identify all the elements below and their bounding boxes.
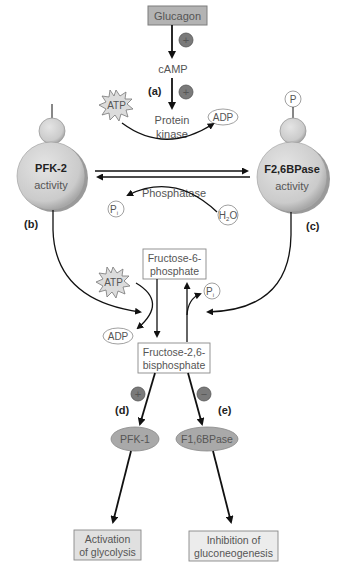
svg-text:−: −	[201, 388, 207, 400]
pfk1-oval: PFK-1	[111, 427, 159, 451]
pfk2-to-reaction-arrow	[53, 210, 140, 312]
pi-release-arrow	[187, 294, 200, 315]
svg-text:ATP: ATP	[107, 100, 126, 111]
f26bpase-sub: activity	[275, 180, 309, 192]
adp-oval-top: ADP	[208, 109, 238, 125]
pi-circle-top: Pi	[108, 201, 124, 217]
svg-text:P: P	[290, 94, 297, 105]
minus-sign-icon: −	[197, 387, 211, 401]
camp-label: cAMP	[158, 63, 187, 75]
glucagon-label: Glucagon	[154, 10, 201, 22]
glucagon-regulation-diagram: Glucagon + cAMP (a) + Protein kinase ATP…	[0, 0, 340, 585]
svg-text:F1,6BPase: F1,6BPase	[181, 433, 233, 445]
fructose-6-phosphate-box: Fructose-6- phosphate	[143, 249, 206, 279]
protein-kinase-label-2: kinase	[156, 128, 188, 140]
label-b: (b)	[24, 218, 38, 230]
f16bpase-to-inhibition-arrow	[213, 451, 231, 522]
f26bpase-title: F2,6BPase	[264, 163, 320, 175]
svg-text:+: +	[183, 86, 189, 98]
pfk2-sub: activity	[34, 179, 68, 191]
svg-text:Inhibition of: Inhibition of	[207, 534, 261, 546]
plus-sign-icon: +	[179, 85, 193, 99]
adp-oval-mid: ADP	[103, 328, 133, 344]
protein-kinase-label-1: Protein	[155, 114, 190, 126]
f26bpase-to-reaction-arrow	[208, 212, 291, 312]
f16bpase-oval: F1,6BPase	[176, 427, 238, 451]
pi-circle-mid: Pi	[204, 283, 220, 299]
phosphatase-label: Phosphatase	[142, 187, 206, 199]
glucagon-box: Glucagon	[148, 6, 207, 25]
inhibition-of-gluconeogenesis-box: Inhibition of gluconeogenesis	[189, 531, 278, 561]
label-d: (d)	[115, 404, 129, 416]
svg-text:PFK-1: PFK-1	[120, 433, 150, 445]
atp-burst-top: ATP	[99, 90, 133, 121]
svg-text:phosphate: phosphate	[150, 265, 199, 277]
svg-text:Fructose-6-: Fructose-6-	[148, 252, 202, 264]
atp-burst-mid: ATP	[96, 267, 130, 298]
label-c: (c)	[306, 220, 320, 232]
pfk2-title: PFK-2	[35, 162, 67, 174]
svg-text:ADP: ADP	[108, 331, 129, 342]
label-e: (e)	[218, 404, 232, 416]
activation-of-glycolysis-box: Activation of glycolysis	[74, 530, 141, 560]
svg-text:of glycolysis: of glycolysis	[79, 546, 136, 558]
pfk2-enzyme: PFK-2 activity	[17, 104, 88, 212]
svg-text:gluconeogenesis: gluconeogenesis	[194, 547, 273, 559]
atp-to-adp-mid-arrow	[136, 283, 153, 328]
f26bpase-enzyme: P F2,6BPase activity	[257, 91, 330, 214]
svg-text:Activation: Activation	[85, 533, 131, 545]
phosphate-tag-icon: P	[285, 91, 301, 107]
svg-text:bisphosphate: bisphosphate	[143, 359, 206, 371]
svg-text:ATP: ATP	[104, 277, 123, 288]
pfk1-to-activation-arrow	[113, 451, 131, 522]
plus-sign-icon: +	[179, 33, 193, 47]
svg-text:+: +	[183, 34, 189, 46]
svg-text:+: +	[135, 388, 141, 400]
fructose-2-6-bisphosphate-box: Fructose-2,6- bisphosphate	[138, 343, 210, 373]
plus-sign-icon: +	[131, 387, 145, 401]
h2o-circle: H2O	[218, 205, 238, 225]
svg-text:ADP: ADP	[213, 112, 234, 123]
label-a: (a)	[148, 85, 162, 97]
svg-text:Fructose-2,6-: Fructose-2,6-	[143, 346, 206, 358]
